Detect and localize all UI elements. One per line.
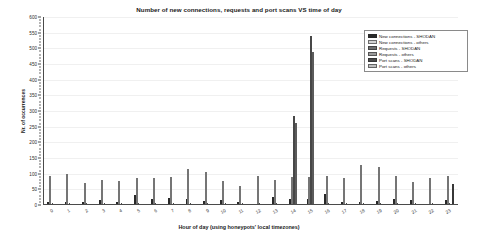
bar xyxy=(222,181,224,204)
legend-item[interactable]: Port scans - SHODAN xyxy=(368,57,464,63)
x-tick: 4 xyxy=(112,205,129,221)
chart-figure: Number of new connections, requests and … xyxy=(0,0,478,241)
bar-group xyxy=(65,17,76,204)
legend-swatch xyxy=(368,52,377,57)
bar-group xyxy=(151,17,162,204)
legend-item[interactable]: Requests - others xyxy=(368,51,464,57)
x-tick-mark xyxy=(432,203,433,205)
y-tick-label: 350 xyxy=(29,93,37,98)
x-tick-mark xyxy=(259,203,260,205)
x-tick-mark xyxy=(190,203,191,205)
y-tick-minor xyxy=(39,89,41,90)
x-tick-mark xyxy=(69,203,70,205)
y-tick-minor xyxy=(39,104,41,105)
y-tick-minor xyxy=(39,117,41,118)
x-tick-label: 17 xyxy=(341,208,348,215)
x-tick-label: 13 xyxy=(272,208,279,215)
x-tick-label: 16 xyxy=(324,208,331,215)
x-tick-label: 20 xyxy=(393,208,400,215)
x-tick: 21 xyxy=(406,205,423,221)
x-tick: 16 xyxy=(320,205,337,221)
bar-group xyxy=(168,17,179,204)
x-tick: 22 xyxy=(423,205,440,221)
y-tick-minor xyxy=(39,164,41,165)
y-tick-minor xyxy=(39,29,41,30)
legend-swatch xyxy=(368,58,377,63)
bar xyxy=(343,178,345,204)
bar-group xyxy=(237,17,248,204)
y-tick-minor xyxy=(39,26,41,27)
bar xyxy=(412,182,414,204)
x-tick-mark xyxy=(104,203,105,205)
y-tick-minor xyxy=(39,73,41,74)
y-tick-minor xyxy=(39,136,41,137)
y-tick-mark xyxy=(38,32,41,33)
bar xyxy=(312,52,314,204)
y-tick-minor xyxy=(39,54,41,55)
x-tick: 9 xyxy=(199,205,216,221)
x-tick-label: 4 xyxy=(119,208,124,214)
bar-group xyxy=(255,17,266,204)
x-axis-title: Hour of day (using honeypots' local time… xyxy=(0,224,478,230)
y-tick-minor xyxy=(39,179,41,180)
y-tick-mark xyxy=(38,95,41,96)
y-tick-mark xyxy=(38,158,41,159)
y-tick-minor xyxy=(39,57,41,58)
x-tick-label: 3 xyxy=(101,208,106,214)
legend-item[interactable]: Port scans - others xyxy=(368,63,464,69)
legend-label: New connections - SHODAN xyxy=(379,34,435,39)
bar xyxy=(239,186,241,204)
x-tick: 12 xyxy=(251,205,268,221)
y-tick-minor xyxy=(39,82,41,83)
y-tick-minor xyxy=(39,129,41,130)
bar xyxy=(170,177,172,204)
legend-swatch xyxy=(368,34,377,39)
y-tick-mark xyxy=(38,64,41,65)
y-tick-minor xyxy=(39,35,41,36)
bar-group xyxy=(203,17,214,204)
legend-label: Requests - SHODAN xyxy=(379,46,420,51)
x-tick-label: 2 xyxy=(84,208,89,214)
x-tick-mark xyxy=(415,203,416,205)
legend-swatch xyxy=(368,40,377,45)
bar xyxy=(452,184,454,204)
y-tick-minor xyxy=(39,132,41,133)
y-tick-minor xyxy=(39,114,41,115)
y-tick-mark xyxy=(38,173,41,174)
y-tick-minor xyxy=(39,139,41,140)
y-tick-minor xyxy=(39,183,41,184)
y-tick-label: 300 xyxy=(29,109,37,114)
legend-item[interactable]: New connections - SHODAN xyxy=(368,33,464,39)
legend-label: Port scans - others xyxy=(379,64,416,69)
chart-title: Number of new connections, requests and … xyxy=(0,6,478,13)
y-tick-minor xyxy=(39,198,41,199)
y-tick-minor xyxy=(39,107,41,108)
x-tick-mark xyxy=(138,203,139,205)
x-tick-label: 8 xyxy=(188,208,193,214)
x-tick: 15 xyxy=(302,205,319,221)
y-tick-mark xyxy=(38,48,41,49)
y-tick-label: 250 xyxy=(29,124,37,129)
y-tick-minor xyxy=(39,154,41,155)
legend-label: Requests - others xyxy=(379,52,414,57)
bar xyxy=(295,123,297,204)
x-tick-label: 21 xyxy=(410,208,417,215)
y-tick-minor xyxy=(39,192,41,193)
legend-swatch xyxy=(368,64,377,69)
y-tick-minor xyxy=(39,167,41,168)
x-tick-label: 1 xyxy=(67,208,72,214)
y-tick-minor xyxy=(39,92,41,93)
y-tick-minor xyxy=(39,98,41,99)
x-tick-label: 23 xyxy=(445,208,452,215)
bar-group xyxy=(289,17,300,204)
y-tick-label: 200 xyxy=(29,140,37,145)
x-tick-label: 15 xyxy=(307,208,314,215)
legend-item[interactable]: Requests - SHODAN xyxy=(368,45,464,51)
x-tick: 14 xyxy=(285,205,302,221)
y-tick-label: 100 xyxy=(29,171,37,176)
bar xyxy=(118,181,120,205)
x-tick-label: 6 xyxy=(153,208,158,214)
y-tick-minor xyxy=(39,45,41,46)
legend-item[interactable]: New connections - others xyxy=(368,39,464,45)
x-tick-mark xyxy=(449,203,450,205)
